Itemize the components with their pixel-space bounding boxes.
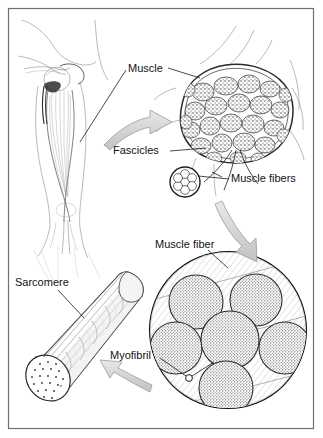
fascicle-detail-circle [170, 167, 200, 197]
label-sarcomere: Sarcomere [15, 276, 69, 288]
label-fascicles: Fascicles [113, 144, 159, 156]
muscle-structure-figure: Muscle Fascicles Muscle fibers Muscle fi… [0, 0, 323, 438]
label-muscle: Muscle [128, 62, 163, 74]
label-muscle-fiber: Muscle fiber [155, 238, 215, 250]
label-muscle-fibers: Muscle fibers [231, 172, 296, 184]
diagram-canvas: Muscle Fascicles Muscle fibers Muscle fi… [0, 0, 323, 438]
myofibril-pointer-node [186, 375, 193, 382]
label-myofibril: Myofibril [110, 349, 151, 361]
